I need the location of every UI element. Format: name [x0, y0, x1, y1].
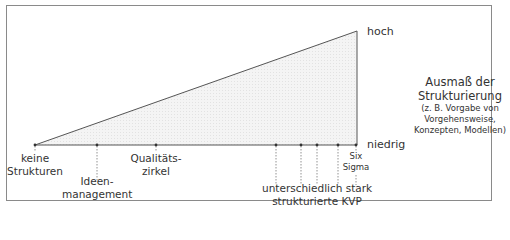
marker-line2: management: [62, 188, 132, 201]
legend-note-line2: Vorgehensweise,: [410, 114, 510, 125]
legend-note-line3: Konzepten, Modellen): [410, 125, 510, 136]
marker-line1: Six: [336, 151, 376, 162]
axis-low-label: niedrig: [367, 138, 405, 151]
marker-label-keine-strukturen: keine Strukturen: [4, 152, 66, 178]
marker-line2: Strukturen: [4, 165, 66, 178]
marker-line1: unterschiedlich stark: [262, 182, 372, 195]
marker-line2: strukturierte KVP: [262, 195, 372, 208]
marker-label-ideenmanagement: Ideen- management: [62, 175, 132, 201]
legend-title-line2: Strukturierung: [410, 89, 510, 103]
marker-line2: Sigma: [336, 162, 376, 173]
legend-title-line1: Ausmaß der: [410, 75, 510, 89]
legend-note-line1: (z. B. Vorgabe von: [410, 103, 510, 114]
marker-line1: keine: [4, 152, 66, 165]
marker-line2: zirkel: [121, 165, 191, 178]
marker-label-kvp: unterschiedlich stark strukturierte KVP: [262, 182, 372, 208]
marker-label-qualitaetszirkel: Qualitäts- zirkel: [121, 152, 191, 178]
axis-high-label: hoch: [367, 25, 394, 38]
marker-label-six-sigma: Six Sigma: [336, 151, 376, 173]
legend: Ausmaß der Strukturierung (z. B. Vorgabe…: [410, 75, 510, 136]
marker-line1: Qualitäts-: [121, 152, 191, 165]
